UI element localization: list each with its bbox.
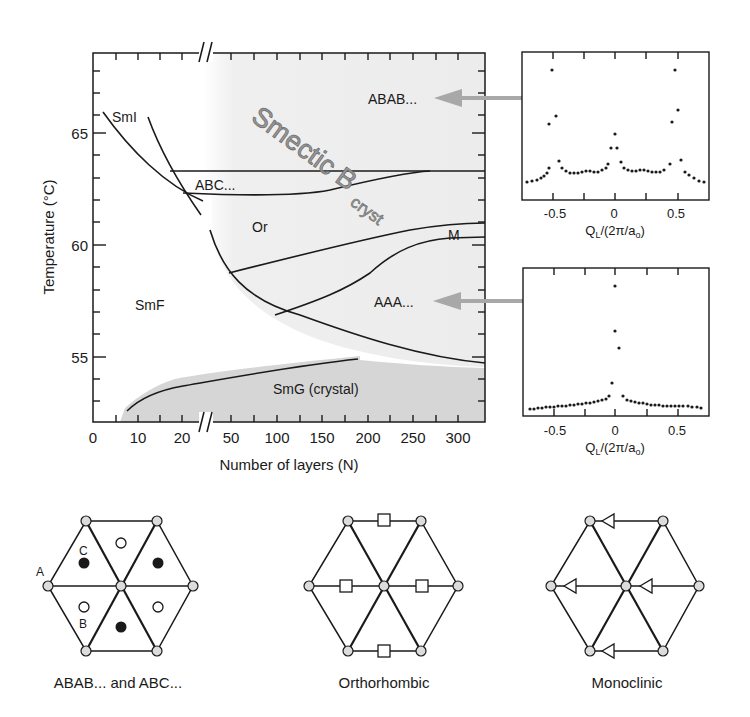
b-sites	[79, 538, 163, 612]
svg-text:-0.5: -0.5	[544, 423, 566, 438]
svg-text:100: 100	[264, 429, 289, 446]
inset-abab-diffraction: -0.5 0 0.5 QL/(2π/ao)	[522, 52, 709, 240]
site-label-b: B	[79, 617, 87, 631]
c-sites	[79, 558, 164, 633]
svg-text:150: 150	[309, 429, 334, 446]
site-label-a: A	[36, 565, 44, 579]
label-m: M	[448, 227, 460, 243]
inset-frame	[522, 52, 709, 200]
axis-break-bottom	[199, 412, 213, 432]
lattice-monoclinic	[546, 514, 704, 658]
caption-abab-abc: ABAB... and ABC...	[54, 674, 182, 691]
label-abab: ABAB...	[368, 91, 417, 107]
inset-bottom-xlabel: QL/(2π/ao)	[585, 440, 644, 457]
caption-monoclinic: Monoclinic	[592, 674, 663, 691]
y-tick-labels: 65 60 55	[71, 125, 88, 366]
label-or: Or	[252, 219, 268, 235]
svg-text:250: 250	[400, 429, 425, 446]
inset-frame	[523, 268, 709, 416]
y-tick-55: 55	[71, 349, 88, 366]
label-smi: SmI	[112, 109, 137, 125]
svg-text:10: 10	[130, 429, 147, 446]
site-label-c: C	[79, 544, 88, 558]
label-smf: SmF	[135, 297, 165, 313]
svg-text:200: 200	[355, 429, 380, 446]
label-smg-crystal: SmG (crystal)	[273, 381, 359, 397]
label-abc: ABC...	[195, 177, 235, 193]
caption-orthorhombic: Orthorhombic	[339, 674, 430, 691]
y-tick-60: 60	[71, 237, 88, 254]
label-aaa: AAA...	[374, 294, 414, 310]
y-tick-65: 65	[71, 125, 88, 142]
svg-text:0: 0	[610, 206, 617, 221]
svg-text:300: 300	[445, 429, 470, 446]
svg-text:0: 0	[89, 429, 97, 446]
inset-aaa-diffraction: -0.5 0 0.5 QL/(2π/ao)	[523, 268, 709, 457]
phase-diagram: 65 60 55 0 10 20 50 100 150 200 250 300 …	[40, 42, 523, 473]
svg-text:0: 0	[611, 423, 618, 438]
lattice-orthorhombic	[304, 514, 463, 657]
lattice-abab-abc: A C B	[36, 516, 198, 656]
x-tick-labels: 0 10 20 50 100 150 200 250 300	[89, 429, 471, 446]
svg-text:50: 50	[223, 429, 240, 446]
x-axis-label: Number of layers (N)	[219, 456, 358, 473]
inset-top-xlabel: QL/(2π/ao)	[585, 223, 644, 240]
svg-text:0.5: 0.5	[668, 423, 686, 438]
svg-text:-0.5: -0.5	[544, 206, 566, 221]
svg-text:20: 20	[174, 429, 191, 446]
axis-break-top	[199, 42, 213, 62]
y-axis-label: Temperature (°C)	[40, 179, 57, 294]
svg-text:0.5: 0.5	[667, 206, 685, 221]
figure: 65 60 55 0 10 20 50 100 150 200 250 300 …	[0, 0, 750, 717]
